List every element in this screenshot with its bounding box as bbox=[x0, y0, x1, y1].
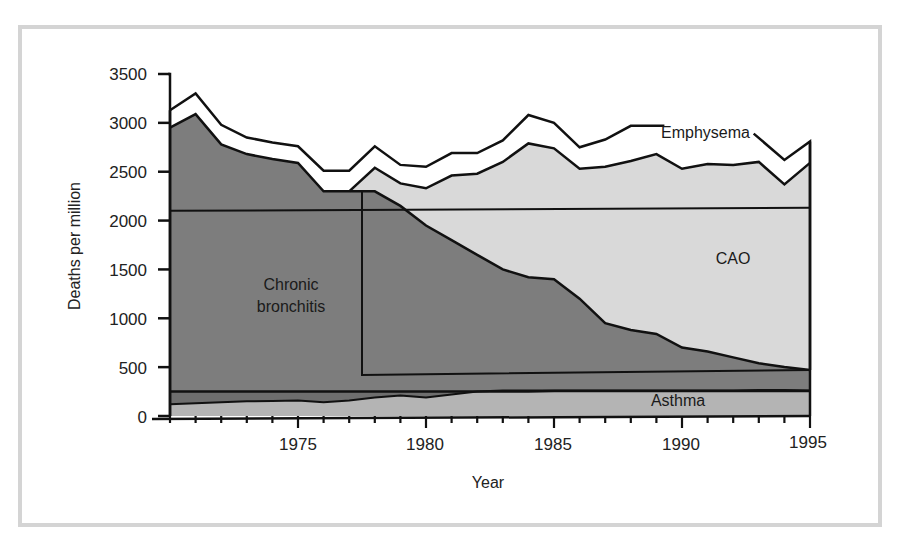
x-axis-line bbox=[152, 416, 810, 419]
y-axis-title: Deaths per million bbox=[66, 182, 83, 310]
x-tick-label: 1975 bbox=[279, 435, 317, 454]
y-tick-label: 2000 bbox=[109, 212, 147, 231]
x-tick-label: 1995 bbox=[789, 433, 827, 452]
x-tick-label: 1990 bbox=[662, 435, 700, 454]
x-tick-label: 1980 bbox=[406, 435, 444, 454]
label-emphysema: Emphysema bbox=[661, 124, 750, 141]
y-tick-label: 0 bbox=[138, 408, 147, 427]
label-chronic-line2: bronchitis bbox=[257, 298, 325, 315]
y-tick-label: 2500 bbox=[109, 163, 147, 182]
x-tick-label: 1985 bbox=[534, 435, 572, 454]
y-tick-label: 1500 bbox=[109, 261, 147, 280]
area-chart: Deaths per million Year Emphysema CAO Ch… bbox=[0, 0, 903, 555]
y-axis-line bbox=[168, 74, 170, 416]
x-axis-title: Year bbox=[472, 474, 505, 491]
y-tick-label: 1000 bbox=[109, 310, 147, 329]
y-tick-labels: 3500 3000 2500 2000 1500 1000 500 0 bbox=[109, 65, 147, 427]
plot-area bbox=[170, 94, 810, 417]
label-cao: CAO bbox=[716, 250, 751, 267]
x-tick-labels: 1975 1980 1985 1990 1995 bbox=[279, 433, 827, 454]
y-tick-label: 500 bbox=[119, 359, 147, 378]
y-tick-label: 3000 bbox=[109, 114, 147, 133]
y-tick-label: 3500 bbox=[109, 65, 147, 84]
label-asthma: Asthma bbox=[651, 392, 705, 409]
label-chronic-line1: Chronic bbox=[263, 276, 318, 293]
